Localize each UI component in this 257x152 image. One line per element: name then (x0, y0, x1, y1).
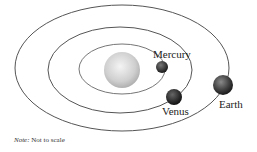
solar-system-diagram (0, 0, 257, 152)
mercury-label: Mercury (153, 49, 191, 60)
mercury-planet (156, 61, 168, 73)
scale-note: Note: Not to scale (14, 136, 65, 144)
venus-planet (166, 89, 182, 105)
note-prefix: Note: (14, 136, 30, 144)
venus-label: Venus (162, 106, 189, 117)
earth-planet (213, 75, 233, 95)
sun (104, 52, 140, 88)
earth-label: Earth (219, 99, 243, 110)
note-text: Not to scale (30, 136, 65, 144)
